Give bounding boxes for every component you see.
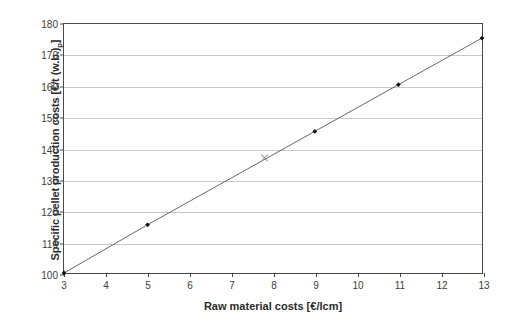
data-point-marker bbox=[480, 36, 485, 41]
series-line bbox=[64, 38, 482, 273]
x-tick-mark bbox=[484, 273, 485, 277]
x-tick-mark bbox=[442, 273, 443, 277]
x-tick-label: 9 bbox=[313, 280, 319, 291]
x-axis-title: Raw material costs [€/lcm] bbox=[63, 300, 483, 312]
data-point-marker bbox=[145, 222, 150, 227]
y-axis-title-tail: ] bbox=[49, 40, 61, 44]
x-tick-label: 10 bbox=[352, 280, 363, 291]
x-tick-mark bbox=[148, 273, 149, 277]
x-tick-mark bbox=[232, 273, 233, 277]
x-tick-mark bbox=[400, 273, 401, 277]
x-tick-label: 6 bbox=[187, 280, 193, 291]
data-point-marker bbox=[312, 129, 317, 134]
y-tick-label: 140 bbox=[41, 144, 58, 155]
x-tick-label: 7 bbox=[229, 280, 235, 291]
plot-area: 100110120130140150160170180 345678910111… bbox=[63, 23, 483, 274]
y-tick-label: 170 bbox=[41, 50, 58, 61]
x-tick-mark bbox=[106, 273, 107, 277]
x-tick-label: 5 bbox=[145, 280, 151, 291]
x-tick-mark bbox=[316, 273, 317, 277]
x-tick-label: 13 bbox=[478, 280, 489, 291]
x-tick-mark bbox=[358, 273, 359, 277]
y-tick-label: 110 bbox=[42, 238, 58, 249]
data-series-layer bbox=[64, 24, 482, 273]
chart-figure: Specific pellet production costs [€/t (w… bbox=[0, 0, 509, 331]
data-point-marker bbox=[396, 82, 401, 87]
x-tick-label: 11 bbox=[395, 280, 405, 291]
y-tick-label: 100 bbox=[41, 270, 58, 281]
x-tick-label: 3 bbox=[61, 280, 67, 291]
y-tick-label: 160 bbox=[41, 81, 58, 92]
y-tick-label: 120 bbox=[41, 207, 58, 218]
x-tick-label: 12 bbox=[436, 280, 447, 291]
y-tick-label: 150 bbox=[41, 113, 58, 124]
x-tick-label: 4 bbox=[103, 280, 109, 291]
x-tick-label: 8 bbox=[271, 280, 277, 291]
x-tick-mark bbox=[190, 273, 191, 277]
x-tick-mark bbox=[274, 273, 275, 277]
y-tick-label: 180 bbox=[41, 19, 58, 30]
y-tick-label: 130 bbox=[41, 175, 58, 186]
